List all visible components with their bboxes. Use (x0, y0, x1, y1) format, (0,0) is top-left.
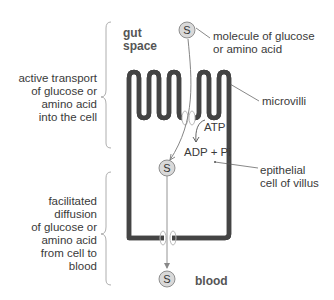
epithelial-label-line-2: cell of villus (260, 177, 319, 190)
svg-text:S: S (163, 273, 170, 285)
epithelial-cell-label: epithelial cell of villus (260, 164, 319, 190)
svg-text:S: S (163, 162, 170, 174)
active-transport-line-3: amino acid (18, 98, 97, 111)
diffusion-arrow (164, 176, 170, 269)
active-transport-line-2: of glucose or (18, 85, 97, 98)
molecule-label-line-2: or amino acid (213, 43, 315, 56)
facilitated-line-3: of glucose or (31, 221, 97, 234)
gut-space-label: gut space (123, 27, 157, 53)
molecule-bottom: S (159, 271, 175, 287)
molecule-label: molecule of glucose or amino acid (213, 30, 315, 56)
facilitated-diffusion-label: facilitated diffusion of glucose or amin… (31, 195, 97, 273)
facilitated-line-5: from cell to (31, 247, 97, 260)
microvilli-label: microvilli (262, 95, 306, 108)
braces (101, 22, 111, 285)
active-transport-label: active transport of glucose or amino aci… (18, 72, 97, 124)
facilitated-line-4: amino acid (31, 234, 97, 247)
epithelial-label-line-1: epithelial (260, 164, 319, 177)
adp-pi-label: ADP + Pi (184, 146, 231, 159)
facilitated-line-2: diffusion (31, 208, 97, 221)
active-transport-line-4: into the cell (18, 111, 97, 124)
atp-label: ATP (204, 121, 226, 134)
molecule-label-line-1: molecule of glucose (213, 30, 315, 43)
svg-text:S: S (183, 24, 190, 36)
molecule-top: S (179, 22, 195, 38)
blood-label: blood (195, 275, 228, 288)
facilitated-line-1: facilitated (31, 195, 97, 208)
molecule-middle: S (159, 160, 175, 176)
active-transport-line-1: active transport (18, 72, 97, 85)
gut-space-line-2: space (123, 40, 157, 53)
facilitated-line-6: blood (31, 260, 97, 273)
